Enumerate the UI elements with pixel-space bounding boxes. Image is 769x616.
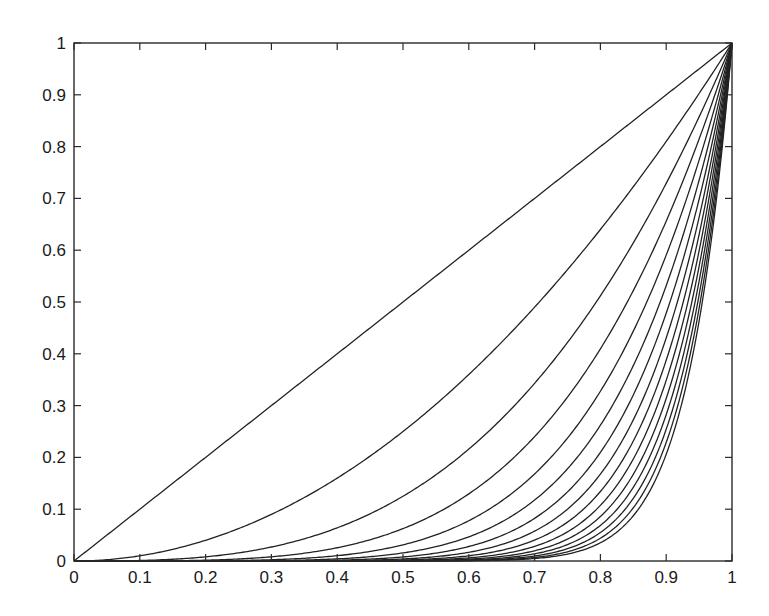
x-tick-label: 0.5 xyxy=(391,568,415,587)
x-tick-label: 0.2 xyxy=(194,568,218,587)
x-tick-label: 0.8 xyxy=(589,568,613,587)
x-tick-label: 0.4 xyxy=(325,568,349,587)
y-tick-label: 1 xyxy=(57,34,66,53)
y-tick-label: 0.6 xyxy=(42,241,66,260)
y-tick-label: 0.5 xyxy=(42,293,66,312)
y-tick-label: 0.7 xyxy=(42,189,66,208)
power-curves-chart: 00.10.20.30.40.50.60.70.80.91 00.10.20.3… xyxy=(0,0,769,616)
x-axis: 00.10.20.30.40.50.60.70.80.91 xyxy=(69,43,736,587)
y-tick-label: 0.3 xyxy=(42,397,66,416)
x-tick-label: 0.6 xyxy=(457,568,481,587)
x-tick-label: 1 xyxy=(727,568,736,587)
x-tick-label: 0.9 xyxy=(654,568,678,587)
y-tick-label: 0 xyxy=(57,552,66,571)
x-tick-label: 0.3 xyxy=(260,568,284,587)
y-tick-label: 0.8 xyxy=(42,138,66,157)
curve-group xyxy=(74,43,732,561)
y-tick-label: 0.9 xyxy=(42,86,66,105)
x-tick-label: 0 xyxy=(69,568,78,587)
curve-x-pow-1 xyxy=(74,43,732,561)
y-tick-label: 0.1 xyxy=(42,500,66,519)
y-tick-label: 0.2 xyxy=(42,448,66,467)
x-tick-label: 0.7 xyxy=(523,568,547,587)
y-axis: 00.10.20.30.40.50.60.70.80.91 xyxy=(42,34,732,571)
x-tick-label: 0.1 xyxy=(128,568,152,587)
y-tick-label: 0.4 xyxy=(42,345,66,364)
